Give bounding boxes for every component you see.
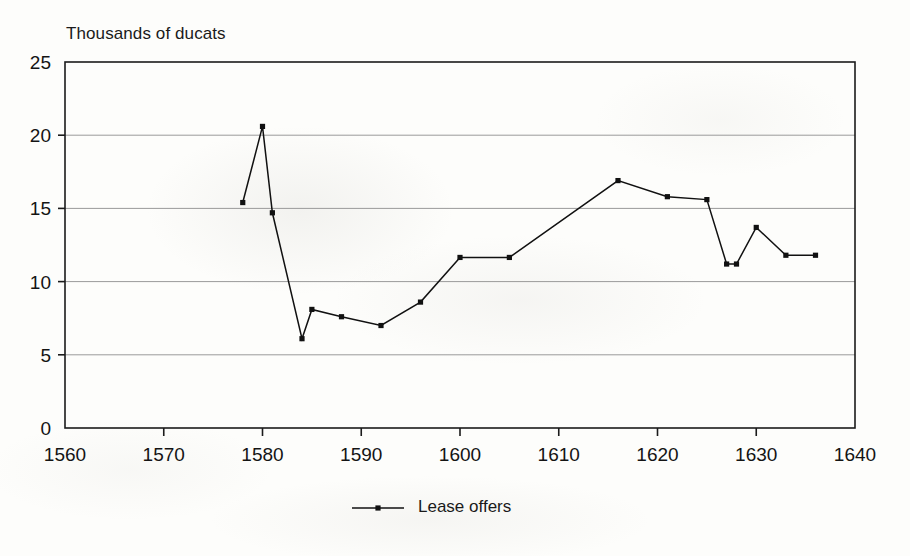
data-point-marker — [507, 255, 512, 260]
data-point-marker — [734, 261, 739, 266]
data-point-marker — [615, 178, 620, 183]
data-point-marker — [724, 261, 729, 266]
xtick-label-1570: 1570 — [143, 444, 185, 465]
data-point-marker — [783, 253, 788, 258]
ytick-label-15: 15 — [30, 198, 51, 219]
data-point-marker — [260, 124, 265, 129]
ytick-label-10: 10 — [30, 272, 51, 293]
line-chart-plot: 0510152025156015701580159016001610162016… — [0, 0, 910, 556]
ytick-label-20: 20 — [30, 125, 51, 146]
data-point-marker — [299, 336, 304, 341]
legend-marker-sample — [375, 505, 380, 510]
xtick-label-1620: 1620 — [636, 444, 678, 465]
xtick-label-1610: 1610 — [538, 444, 580, 465]
ytick-label-5: 5 — [40, 345, 51, 366]
data-point-marker — [665, 194, 670, 199]
xtick-label-1590: 1590 — [340, 444, 382, 465]
ytick-label-25: 25 — [30, 52, 51, 73]
data-point-marker — [240, 200, 245, 205]
xtick-label-1600: 1600 — [439, 444, 481, 465]
ytick-label-0: 0 — [40, 418, 51, 439]
data-point-marker — [418, 299, 423, 304]
data-point-marker — [754, 225, 759, 230]
data-point-marker — [704, 197, 709, 202]
data-point-marker — [457, 255, 462, 260]
series-line-0 — [243, 126, 816, 338]
legend-label-lease-offers: Lease offers — [418, 497, 511, 517]
data-point-marker — [309, 307, 314, 312]
data-point-marker — [270, 210, 275, 215]
plot-frame — [65, 62, 855, 428]
xtick-label-1640: 1640 — [834, 444, 876, 465]
data-point-marker — [813, 253, 818, 258]
data-point-marker — [339, 314, 344, 319]
xtick-label-1630: 1630 — [735, 444, 777, 465]
xtick-label-1560: 1560 — [44, 444, 86, 465]
xtick-label-1580: 1580 — [241, 444, 283, 465]
data-point-marker — [378, 323, 383, 328]
chart-figure: Thousands of ducats 05101520251560157015… — [0, 0, 910, 556]
